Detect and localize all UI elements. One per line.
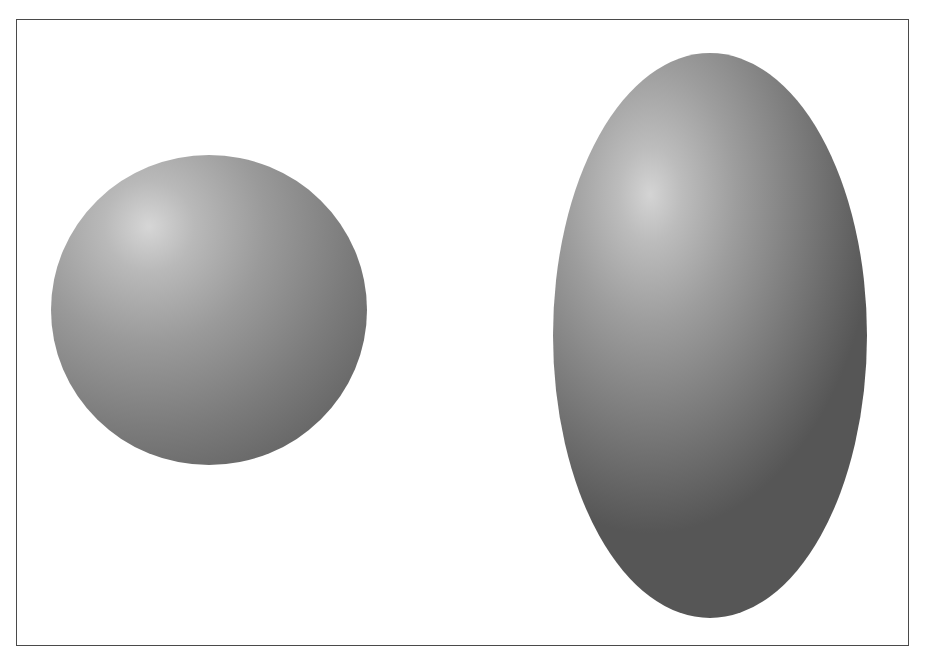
figure-canvas: sphere ellipsoid (0, 0, 929, 657)
sphere-shape: sphere (51, 155, 367, 465)
ellipsoid-shape: ellipsoid (553, 53, 867, 618)
